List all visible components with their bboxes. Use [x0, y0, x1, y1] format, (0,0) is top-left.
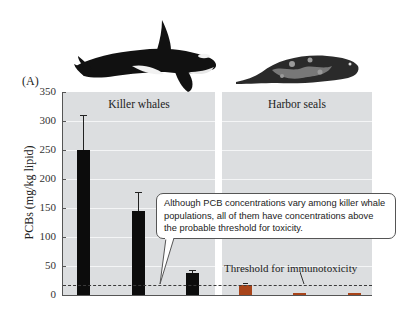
error-bar	[83, 115, 84, 155]
panel-title-killer-whales: Killer whales	[63, 98, 215, 110]
bar-killer-whale-1	[77, 150, 90, 295]
callout-pointer	[158, 238, 178, 286]
y-tick	[62, 121, 66, 122]
y-tick-label: 350	[32, 85, 56, 97]
bar-harbor-seal-1	[239, 285, 252, 295]
y-tick-label: 50	[32, 259, 56, 271]
threshold-pointer	[300, 272, 306, 286]
bar-killer-whale-3	[186, 273, 199, 295]
y-tick	[62, 208, 66, 209]
error-bar	[138, 192, 139, 212]
bar-harbor-seal-2	[293, 293, 306, 295]
threshold-line	[63, 285, 372, 286]
error-cap	[189, 270, 196, 271]
y-tick	[62, 150, 66, 151]
harbor-seal-illustration	[232, 46, 362, 86]
bar-killer-whale-2	[132, 211, 145, 295]
x-axis-line	[62, 295, 372, 296]
y-tick	[62, 266, 66, 267]
threshold-label: Threshold for immunotoxicity	[224, 262, 357, 274]
y-tick-label: 150	[32, 201, 56, 213]
y-tick-label: 200	[32, 172, 56, 184]
y-tick-label: 300	[32, 114, 56, 126]
y-tick	[62, 179, 66, 180]
error-cap	[80, 115, 87, 116]
orca-illustration	[70, 14, 220, 94]
y-tick-label: 100	[32, 230, 56, 242]
panel-title-harbor-seals: Harbor seals	[222, 98, 372, 110]
bar-harbor-seal-3	[348, 293, 361, 295]
callout-box: Although PCB concentrations vary among k…	[156, 193, 396, 239]
y-tick-label: 0	[32, 288, 56, 300]
error-cap	[135, 192, 142, 193]
y-tick	[62, 92, 66, 93]
y-tick	[62, 237, 66, 238]
y-tick-label: 250	[32, 143, 56, 155]
error-cap	[243, 283, 248, 284]
